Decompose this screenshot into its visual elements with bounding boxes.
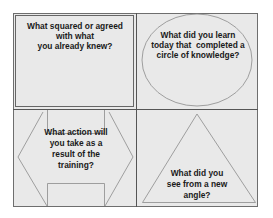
question-line: today that completed a xyxy=(148,40,248,50)
question-line: circle of knowledge? xyxy=(148,50,248,60)
question-line: result of the xyxy=(36,149,116,160)
reflection-board: What squared or agreed with what you alr… xyxy=(0,0,273,218)
question-line: What did you learn xyxy=(148,30,248,40)
question-triangle: What did you see from a new angle? xyxy=(152,168,242,201)
question-line: What did you xyxy=(152,168,242,179)
question-line: training? xyxy=(36,160,116,171)
question-line: see from a new xyxy=(152,179,242,190)
question-square: What squared or agreed with what you alr… xyxy=(20,21,130,51)
question-line: What action will xyxy=(36,127,116,138)
question-hexagon: What action will you take as a result of… xyxy=(36,127,116,171)
question-circle: What did you learn today that completed … xyxy=(148,30,248,60)
question-line: angle? xyxy=(152,190,242,201)
question-line: What squared or agreed xyxy=(20,21,130,31)
question-line: with what xyxy=(20,31,130,41)
question-line: you take as a xyxy=(36,138,116,149)
question-line: you already knew? xyxy=(20,41,130,51)
